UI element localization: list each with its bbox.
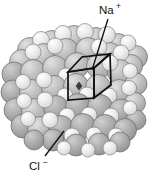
label-chloride-text: Cl	[29, 160, 40, 172]
label-chloride-charge: −	[43, 157, 48, 167]
nacl-lattice-figure: Na + Cl −	[0, 0, 151, 175]
label-sodium-text: Na	[99, 4, 114, 16]
label-sodium-charge: +	[116, 1, 121, 11]
figure-container: Na + Cl −	[0, 0, 151, 175]
crystal-model	[1, 24, 148, 158]
